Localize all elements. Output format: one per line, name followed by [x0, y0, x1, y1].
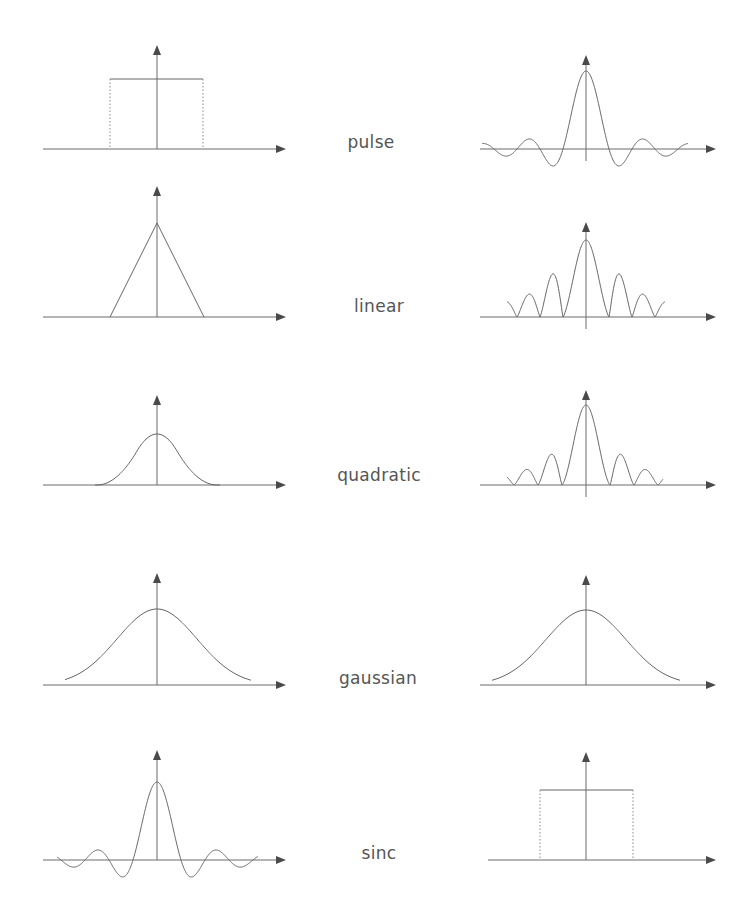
left-x-arrow-icon [276, 681, 286, 689]
right-x-arrow-icon [706, 313, 716, 321]
right-x-arrow-icon [706, 145, 716, 153]
row-label-sinc: sinc [362, 843, 397, 863]
filter-diagram: pulse linear quadratic gaussian sinc [0, 0, 753, 916]
row-label-pulse: pulse [347, 132, 394, 152]
right-x-arrow-icon [706, 681, 716, 689]
right-y-arrow-icon [582, 390, 590, 400]
left-x-arrow-icon [276, 145, 286, 153]
right-y-arrow-icon [582, 752, 590, 762]
left-y-arrow-icon [153, 573, 161, 583]
row-label-linear: linear [354, 296, 404, 316]
left-y-arrow-icon [153, 750, 161, 760]
left-y-arrow-icon [153, 186, 161, 196]
left-y-arrow-icon [153, 395, 161, 405]
row-label-gaussian: gaussian [339, 668, 417, 688]
left-gaussian-curve [65, 609, 251, 680]
right-x-arrow-icon [706, 481, 716, 489]
right-y-arrow-icon [582, 222, 590, 232]
right-y-arrow-icon [582, 55, 590, 65]
right-x-arrow-icon [706, 856, 716, 864]
right-y-arrow-icon [582, 575, 590, 585]
right-sinc3-curve [507, 405, 663, 485]
left-x-arrow-icon [276, 856, 286, 864]
left-x-arrow-icon [276, 481, 286, 489]
row-label-quadratic: quadratic [337, 465, 421, 485]
right-sinc-curve [482, 71, 688, 166]
left-y-arrow-icon [153, 45, 161, 55]
left-x-arrow-icon [276, 313, 286, 321]
